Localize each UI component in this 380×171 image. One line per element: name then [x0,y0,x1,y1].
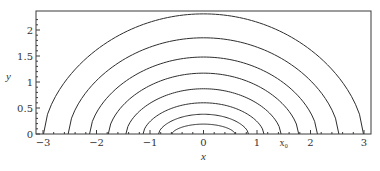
x-tick-label: −3 [36,137,51,148]
x-axis-label: x [200,150,206,162]
curve-7 [68,38,339,134]
y-axis-ticks: 00.511.52 [17,20,40,140]
x-tick-label: 2 [307,137,313,148]
y-tick-label: 1.5 [17,51,33,62]
curve-8 [44,14,364,134]
curve-4 [126,89,281,134]
curve-5 [108,73,298,134]
plot-frame [36,11,371,134]
x-tick-label: 1 [254,137,260,148]
x-tick-label: 3 [361,137,367,148]
x-tick-label: −1 [143,137,158,148]
x-tick-label: −2 [89,137,104,148]
y-axis-label: y [5,70,11,82]
y-tick-label: 0 [27,129,33,140]
chart: −3−2−10123 00.511.52 x y x₀ [0,0,380,171]
curve-6 [90,57,318,134]
curves-group [44,14,364,134]
x-tick-label: 0 [200,137,206,148]
y-tick-label: 0.5 [17,103,33,114]
y-tick-label: 2 [27,25,33,36]
y-tick-label: 1 [27,77,33,88]
x0-annotation: x₀ [280,137,289,148]
